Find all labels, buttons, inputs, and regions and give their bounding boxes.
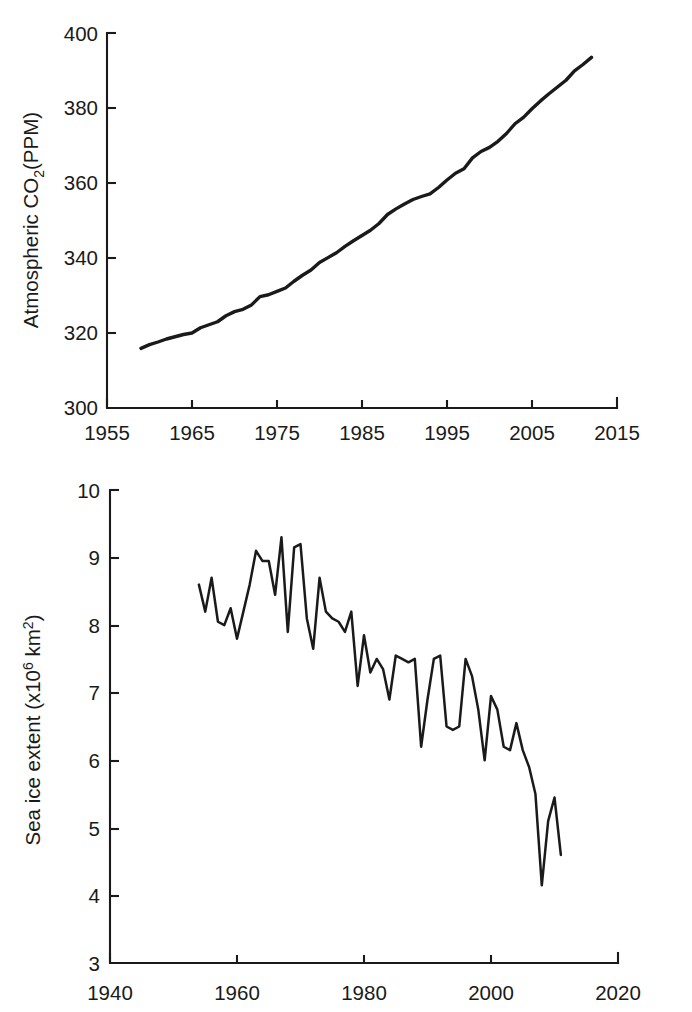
sea-ice-data-line — [199, 537, 561, 885]
ice-ylabel-post: ) — [21, 615, 44, 622]
ice-axes — [110, 490, 618, 963]
ice-ylabel-pre: Sea ice extent (x10 — [21, 670, 44, 846]
ice-xtick-2000: 2000 — [468, 981, 514, 1004]
ice-ytick-6: 6 — [89, 749, 100, 772]
ice-ylabel-mid: km — [21, 629, 44, 662]
ice-ytick-7: 7 — [89, 681, 100, 704]
co2-ytick-320: 320 — [64, 321, 98, 344]
co2-y-ticks — [107, 33, 116, 333]
co2-chart-svg: Atmospheric CO2(PPM) 400 380 360 340 320… — [0, 0, 692, 460]
ice-ytick-10: 10 — [77, 479, 100, 502]
co2-x-ticks — [107, 398, 532, 408]
ice-x-ticks — [110, 953, 491, 963]
co2-ylabel-post: (PPM) — [19, 112, 42, 170]
ice-xtick-1960: 1960 — [214, 981, 260, 1004]
co2-x-tick-labels: 1955 1965 1975 1985 1995 2005 2015 — [84, 421, 640, 444]
co2-y-axis-title: Atmospheric CO2(PPM) — [19, 112, 47, 328]
ice-xtick-1940: 1940 — [87, 981, 133, 1004]
co2-chart-panel: Atmospheric CO2(PPM) 400 380 360 340 320… — [0, 0, 692, 460]
svg-text:Sea ice extent (x106 km2): Sea ice extent (x106 km2) — [20, 615, 44, 846]
ice-ytick-5: 5 — [89, 817, 100, 840]
ice-xtick-1980: 1980 — [341, 981, 387, 1004]
ice-y-axis-title: Sea ice extent (x106 km2) — [20, 615, 44, 846]
svg-text:Atmospheric CO2(PPM): Atmospheric CO2(PPM) — [19, 112, 47, 328]
co2-xtick-2015: 2015 — [594, 421, 640, 444]
climate-figure: Atmospheric CO2(PPM) 400 380 360 340 320… — [0, 0, 692, 1012]
ice-xtick-2020: 2020 — [595, 981, 641, 1004]
co2-axes — [107, 33, 617, 408]
ice-ytick-4: 4 — [89, 884, 100, 907]
co2-xtick-1955: 1955 — [84, 421, 130, 444]
ice-ytick-9: 9 — [89, 546, 100, 569]
ice-ytick-8: 8 — [89, 614, 100, 637]
ice-x-tick-labels: 1940 1960 1980 2000 2020 — [87, 981, 641, 1004]
co2-xtick-1995: 1995 — [424, 421, 470, 444]
co2-ytick-360: 360 — [64, 171, 98, 194]
co2-xtick-2005: 2005 — [509, 421, 555, 444]
co2-ytick-300: 300 — [64, 396, 98, 419]
sea-ice-chart-svg: Sea ice extent (x106 km2) 10 9 8 7 6 5 4… — [0, 460, 692, 1012]
ice-ylabel-sup2: 2 — [20, 621, 36, 629]
co2-ytick-380: 380 — [64, 96, 98, 119]
sea-ice-chart-panel: Sea ice extent (x106 km2) 10 9 8 7 6 5 4… — [0, 460, 692, 1012]
ice-ytick-3: 3 — [89, 952, 100, 975]
co2-xtick-1985: 1985 — [339, 421, 385, 444]
co2-xtick-1965: 1965 — [169, 421, 215, 444]
co2-data-line — [141, 57, 592, 348]
ice-y-tick-labels: 10 9 8 7 6 5 4 3 — [77, 479, 100, 975]
co2-ytick-340: 340 — [64, 246, 98, 269]
ice-ylabel-sup1: 6 — [20, 662, 36, 670]
co2-xtick-1975: 1975 — [254, 421, 300, 444]
ice-y-ticks — [110, 490, 119, 896]
co2-ylabel-pre: Atmospheric CO — [19, 178, 42, 328]
co2-ylabel-sub: 2 — [31, 170, 47, 178]
co2-y-tick-labels: 400 380 360 340 320 300 — [64, 22, 98, 419]
co2-ytick-400: 400 — [64, 22, 98, 45]
